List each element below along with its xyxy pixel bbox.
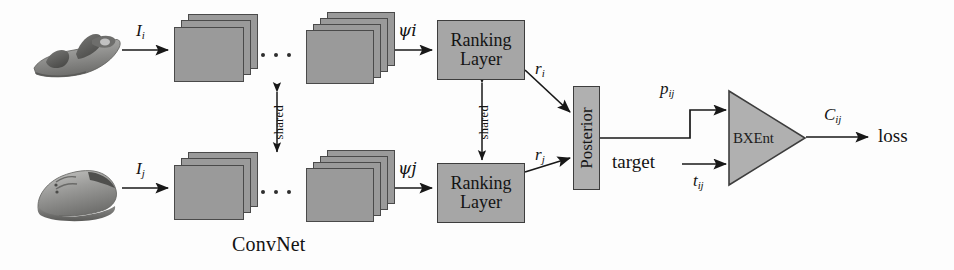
- posterior-output-label: pij: [660, 80, 674, 99]
- ranking-layer-top-line1: Ranking: [451, 31, 512, 50]
- feature-map-stack-top-second: [306, 12, 394, 90]
- ranking-output-label-top: ri: [535, 60, 544, 79]
- ellipsis-bottom: [261, 190, 291, 194]
- architecture-figure: Ii ψi Ranking Layer ri: [0, 0, 954, 270]
- ranking-layer-top-line2: Layer: [460, 50, 502, 69]
- feature-label-bottom: ψj: [398, 160, 417, 177]
- ranking-output-label-bottom: rj: [535, 146, 544, 165]
- ranking-layer-bottom: Ranking Layer: [437, 163, 525, 223]
- target-label: target: [612, 152, 655, 171]
- ranking-layer-top: Ranking Layer: [437, 20, 525, 80]
- shared-label-ranking: shared: [478, 97, 491, 147]
- shoe-photo: [26, 156, 124, 226]
- feature-map-stack-bottom-first: [174, 152, 260, 226]
- input-label-bottom: Ij: [136, 160, 145, 179]
- shared-label-convnet: shared: [273, 97, 286, 147]
- input-label-top: Ii: [136, 22, 145, 41]
- feature-map-stack-bottom-second: [306, 150, 394, 228]
- ranking-layer-bottom-line1: Ranking: [451, 174, 512, 193]
- arrow-ranking-to-posterior-top: [525, 70, 570, 112]
- posterior-node: Posterior: [573, 86, 600, 190]
- sandal-photo: [26, 18, 124, 86]
- ranking-layer-bottom-line2: Layer: [460, 193, 502, 212]
- bxent-label: BXEnt: [733, 130, 774, 147]
- posterior-label: Posterior: [577, 107, 597, 168]
- feature-map-stack-top-first: [174, 14, 260, 88]
- loss-sink-label: loss: [878, 126, 908, 145]
- ellipsis-top: [261, 53, 291, 57]
- feature-label-top: ψi: [398, 22, 417, 39]
- arrow-posterior-to-bxent: [600, 110, 726, 138]
- target-edge-label: tij: [693, 172, 703, 191]
- loss-edge-label: Cij: [824, 106, 841, 125]
- convnet-caption: ConvNet: [232, 234, 306, 254]
- arrow-ranking-to-posterior-bottom: [525, 158, 570, 172]
